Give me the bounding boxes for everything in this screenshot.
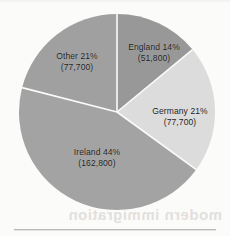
pie-chart: England 14% (51,800) Germany 21% (77,700… [0, 0, 230, 218]
pie-label-other: Other 21% (77,700) [39, 51, 115, 73]
pie-label-germany-value: (77,700) [139, 117, 221, 128]
pie-label-ireland: Ireland 44% (162,800) [55, 147, 139, 169]
pie-label-england: England 14% (51,800) [117, 42, 191, 64]
pie-label-other-value: (77,700) [39, 62, 115, 73]
pie-label-other-name: Other 21% [56, 51, 98, 61]
page-footer-rule-shadow [14, 230, 216, 231]
pie-label-germany: Germany 21% (77,700) [139, 106, 221, 128]
pie-label-ireland-name: Ireland 44% [74, 147, 120, 157]
pie-label-ireland-value: (162,800) [55, 158, 139, 169]
pie-label-germany-name: Germany 21% [152, 106, 207, 116]
pie-label-england-value: (51,800) [117, 53, 191, 64]
pie-label-england-name: England 14% [128, 42, 180, 52]
pie-chart-page: England 14% (51,800) Germany 21% (77,700… [0, 0, 230, 236]
